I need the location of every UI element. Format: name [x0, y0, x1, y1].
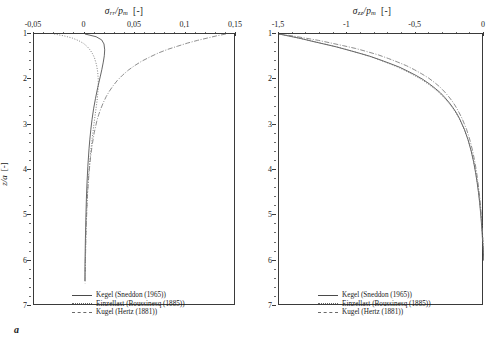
y-minor-tick — [274, 232, 276, 233]
y-minor-tick — [274, 106, 276, 107]
legend-label: Einzellast (Boussinesq (1885)) — [96, 300, 185, 309]
curve-solid — [85, 34, 105, 281]
y-minor-tick — [274, 60, 276, 61]
y-minor-tick — [29, 133, 31, 134]
y-minor-tick — [274, 87, 276, 88]
x-axis-title-a: σrr/pm[-] — [0, 6, 248, 16]
y-minor-tick — [274, 296, 276, 297]
panel-letter-a: a — [14, 324, 19, 335]
y-tick-mark — [27, 33, 31, 34]
y-tick-mark — [272, 260, 276, 261]
y-tick-labels-b: 1234567 — [248, 33, 276, 305]
legend-row: Kegel (Sneddon (1965)) — [318, 291, 431, 300]
y-tick-mark — [27, 305, 31, 306]
y-minor-tick — [29, 269, 31, 270]
y-minor-tick — [29, 96, 31, 97]
y-minor-tick — [29, 278, 31, 279]
y-tick-mark — [272, 214, 276, 215]
x-tick-label: -1 — [343, 20, 350, 29]
y-minor-tick — [29, 223, 31, 224]
y-minor-tick — [274, 287, 276, 288]
x-tick-label: -1,5 — [272, 20, 285, 29]
y-minor-tick — [29, 106, 31, 107]
legend-a: Kegel (Sneddon (1965))Einzellast (Boussi… — [72, 291, 185, 317]
curves-a — [34, 34, 236, 306]
y-tick-mark — [272, 305, 276, 306]
y-minor-tick — [29, 178, 31, 179]
legend-label: Kugel (Hertz (1881)) — [342, 308, 403, 317]
plot-area-b — [278, 33, 483, 305]
legend-line-dotted-icon — [318, 303, 338, 305]
y-axis-title-a: z/a[-] — [0, 162, 9, 186]
legend-line-dotted-icon — [72, 303, 92, 305]
x-tick-label: 0,1 — [180, 20, 190, 29]
y-minor-tick — [29, 142, 31, 143]
y-minor-tick — [29, 205, 31, 206]
y-minor-tick — [29, 51, 31, 52]
y-tick-mark — [272, 169, 276, 170]
legend-label: Einzellast (Boussinesq (1885)) — [342, 300, 431, 309]
y-minor-tick — [274, 160, 276, 161]
x-tick-label: 0 — [481, 20, 485, 29]
y-tick-mark — [27, 124, 31, 125]
legend-row: Einzellast (Boussinesq (1885)) — [72, 300, 185, 309]
legend-b: Kegel (Sneddon (1965))Einzellast (Boussi… — [318, 291, 431, 317]
curve-dotted — [279, 34, 484, 261]
y-minor-tick — [29, 151, 31, 152]
y-minor-tick — [29, 287, 31, 288]
curve-dashdot — [85, 34, 226, 283]
y-tick-mark — [272, 78, 276, 79]
y-minor-tick — [274, 223, 276, 224]
y-minor-tick — [274, 196, 276, 197]
curves-b — [279, 34, 484, 306]
y-minor-tick — [29, 196, 31, 197]
y-axis-symbol-a: z/a — [0, 175, 9, 186]
y-tick-mark — [27, 78, 31, 79]
x-axis-unit-b: [-] — [381, 6, 391, 16]
y-minor-tick — [274, 178, 276, 179]
legend-line-solid-icon — [318, 295, 338, 297]
legend-row: Kegel (Sneddon (1965)) — [72, 291, 185, 300]
x-tick-labels-b: -1,5-1-0,50 — [278, 20, 483, 32]
y-minor-tick — [29, 69, 31, 70]
legend-row: Kugel (Hertz (1881)) — [72, 308, 185, 317]
y-minor-tick — [274, 251, 276, 252]
curve-solid — [279, 34, 484, 261]
legend-label: Kugel (Hertz (1881)) — [96, 308, 157, 317]
y-minor-tick — [274, 115, 276, 116]
legend-line-dashdot-icon — [318, 312, 338, 314]
p-subscript-b: m — [371, 9, 376, 16]
y-tick-mark — [27, 169, 31, 170]
x-tick-label: -0,05 — [25, 20, 42, 29]
y-tick-mark — [272, 124, 276, 125]
x-axis-title-b: σzz/pm[-] — [248, 6, 496, 16]
y-minor-tick — [274, 151, 276, 152]
panel-a: σrr/pm[-] -0,0500,050,10,15 1234567 z/a[… — [0, 0, 248, 347]
y-minor-tick — [29, 160, 31, 161]
y-minor-tick — [29, 296, 31, 297]
y-minor-tick — [274, 269, 276, 270]
curve-dotted — [54, 34, 98, 277]
y-tick-mark — [27, 214, 31, 215]
x-tick-label: 0 — [82, 20, 86, 29]
legend-label: Kegel (Sneddon (1965)) — [342, 291, 412, 300]
y-minor-tick — [29, 60, 31, 61]
y-minor-tick — [274, 51, 276, 52]
figure-container: σrr/pm[-] -0,0500,050,10,15 1234567 z/a[… — [0, 0, 497, 347]
panel-b: σzz/pm[-] -1,5-1-0,50 1234567 z/a[-] Keg… — [248, 0, 496, 347]
legend-row: Kugel (Hertz (1881)) — [318, 308, 431, 317]
x-tick-label: 0,15 — [228, 20, 242, 29]
legend-line-solid-icon — [72, 295, 92, 297]
p-subscript-a: m — [123, 9, 128, 16]
y-minor-tick — [274, 187, 276, 188]
y-minor-tick — [274, 69, 276, 70]
x-axis-unit-a: [-] — [133, 6, 143, 16]
y-minor-tick — [274, 142, 276, 143]
x-tick-labels-a: -0,0500,050,10,15 — [33, 20, 235, 32]
y-minor-tick — [29, 115, 31, 116]
y-minor-tick — [29, 242, 31, 243]
y-minor-tick — [29, 87, 31, 88]
y-axis-unit-a: [-] — [0, 162, 9, 171]
legend-row: Einzellast (Boussinesq (1885)) — [318, 300, 431, 309]
y-minor-tick — [274, 133, 276, 134]
